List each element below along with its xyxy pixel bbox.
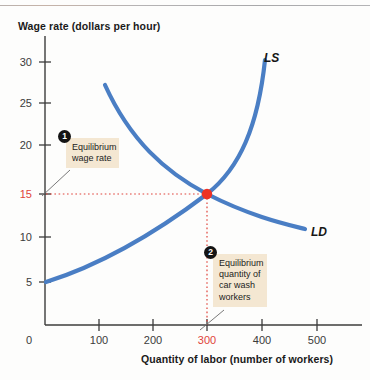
x-tick-label-100: 100	[84, 334, 114, 346]
y-tick-label-0: 0	[8, 334, 32, 346]
labor-demand-curve-label: LD	[311, 225, 327, 239]
x-tick-label-300: 300	[192, 334, 222, 346]
y-tick-label-5: 5	[8, 276, 32, 288]
labor-demand-curve	[105, 85, 305, 229]
callout-1-badge: 1	[58, 130, 71, 143]
x-tick-label-400: 400	[247, 334, 277, 346]
labor-supply-curve-label: LS	[264, 51, 279, 65]
x-tick-label-200: 200	[138, 334, 168, 346]
callout-2-leader-line	[200, 310, 224, 330]
y-tick-label-20: 20	[8, 139, 32, 151]
callout-1-box: Equilibrium wage rate	[66, 138, 119, 168]
labor-supply-curve	[46, 60, 265, 282]
chart-canvas	[0, 0, 370, 380]
callout-2-badge: 2	[204, 246, 217, 259]
economics-figure: Wage rate (dollars per hour) Quantity of…	[0, 0, 370, 380]
y-tick-label-15: 15	[8, 188, 32, 200]
equilibrium-point-marker	[202, 189, 212, 199]
y-tick-label-25: 25	[8, 97, 32, 109]
x-tick-label-500: 500	[302, 334, 332, 346]
y-tick-label-10: 10	[8, 231, 32, 243]
callout-1-leader-line	[42, 170, 70, 196]
callout-2-box: Equilibrium quantity of car wash workers	[213, 254, 267, 307]
y-tick-label-30: 30	[8, 56, 32, 68]
